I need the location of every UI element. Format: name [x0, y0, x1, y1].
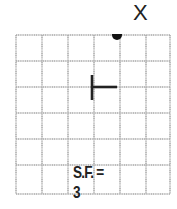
scale-factor-label: S.F. = 3	[73, 172, 113, 194]
point-label: X	[133, 2, 148, 24]
center-marker	[92, 75, 117, 100]
